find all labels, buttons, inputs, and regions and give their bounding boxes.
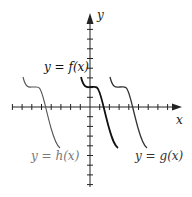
curve-h <box>23 77 60 148</box>
y-axis-arrow-icon <box>87 13 94 24</box>
label-h: y = h(x) <box>30 149 80 163</box>
x-axis <box>12 104 182 111</box>
y-axis <box>87 13 94 187</box>
function-graph: x y y = f(x) y = g(x) y = h(x) <box>0 0 192 197</box>
curve-g <box>110 77 147 148</box>
y-axis-label: y <box>96 8 104 22</box>
x-axis-arrow-icon <box>172 104 182 111</box>
label-f: y = f(x) <box>43 60 89 74</box>
label-g: y = g(x) <box>134 149 184 163</box>
x-axis-label: x <box>176 113 183 127</box>
curve-f <box>81 77 118 148</box>
